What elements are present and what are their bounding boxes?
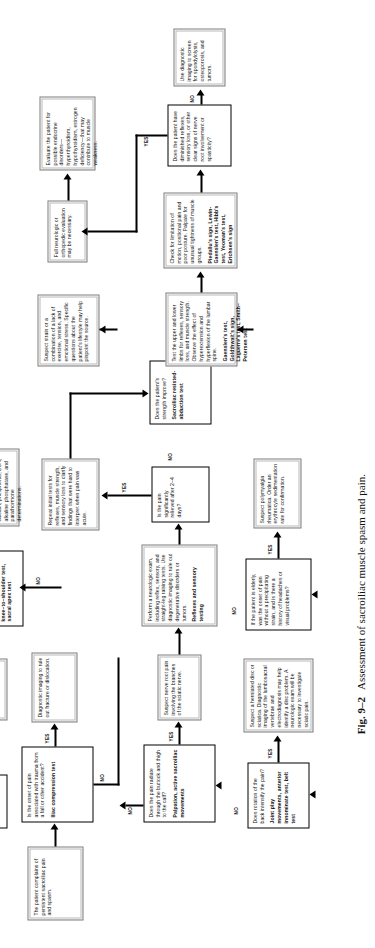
flowchart-rotor: The patient complains of persistent sacr… bbox=[15, 22, 360, 927]
node-n21-text: Test the upper and lower limbs for refle… bbox=[170, 298, 217, 362]
edge-n09-up bbox=[23, 587, 61, 589]
arrow-into-n16 bbox=[311, 591, 317, 599]
arrow-n04-n07 bbox=[119, 802, 125, 810]
edge-n16-n17 bbox=[277, 537, 279, 559]
label-no-n23: NO bbox=[189, 95, 194, 103]
node-n13: Does the patient's strength improve? Sac… bbox=[149, 361, 211, 425]
node-n20-text: Evaluate the patient for possible endocr… bbox=[44, 102, 98, 166]
edge-n02-n04-h bbox=[117, 658, 119, 786]
node-n16-text: If the patient is elderly, was the onset… bbox=[249, 564, 289, 626]
node-n18: Suspect strain or a combination of a lac… bbox=[37, 295, 99, 367]
node-n13-text: Does the patient's strength improve? bbox=[153, 366, 166, 420]
edge-n02-n03 bbox=[54, 729, 56, 747]
edge-n04-n05 bbox=[178, 727, 180, 745]
node-n04: Does the pain radiate through the buttoc… bbox=[143, 745, 215, 823]
node-n23: Does the patient have diminished reflexe… bbox=[167, 105, 231, 167]
node-n17-text: Suspect polymyalgia rheumatica. Order an… bbox=[258, 464, 285, 524]
edge-n23-n19-v bbox=[135, 135, 167, 137]
edge-n01-n02 bbox=[54, 829, 56, 847]
label-no-n16: NO bbox=[231, 607, 236, 615]
node-n10: Suspect hypocalcemia, and check for a po… bbox=[0, 449, 19, 527]
node-n02: Is the onset of pain associated with tra… bbox=[21, 747, 93, 823]
arrow-n19-n20 bbox=[63, 174, 71, 180]
arrow-n22-n23 bbox=[196, 170, 204, 176]
label-no-n11: NO bbox=[167, 453, 172, 461]
node-n16: If the patient is elderly, was the onset… bbox=[245, 559, 311, 631]
figure-page: The patient complains of persistent sacr… bbox=[0, 0, 375, 948]
node-n12-text: Repeat initial tests for reflexes, muscl… bbox=[46, 464, 86, 526]
node-n22-tests: Piedallu's sign, Lewin-Gaenslen's test, … bbox=[206, 198, 233, 264]
arrow-n11-n12 bbox=[101, 492, 107, 500]
node-n07: Does coughing trigger the spasm? bbox=[0, 775, 7, 829]
edge-n12-n13-h bbox=[69, 393, 71, 459]
node-n03: Diagnostic imaging to rule out fracture … bbox=[31, 653, 77, 723]
node-n15: Suspect a herniated disc or sciatica. Di… bbox=[243, 659, 313, 733]
node-n04-text: Does the pain radiate through the buttoc… bbox=[147, 750, 167, 818]
arrow-n06-n11 bbox=[174, 524, 182, 530]
node-n24-text: Use diagnostic imaging to screen for spo… bbox=[178, 34, 212, 82]
edge-n12-n13-v bbox=[69, 393, 143, 395]
figure-caption-text: Assessment of sacroiliac muscle spasm an… bbox=[355, 474, 367, 690]
arrow-into-n14 bbox=[309, 791, 315, 799]
node-n05-text: Suspect nerve root pain involving the br… bbox=[162, 660, 182, 716]
node-n01-text: The patient complains of persistent sacr… bbox=[32, 852, 52, 916]
label-yes-n14: YES bbox=[267, 748, 272, 758]
edge-n02-n04-v bbox=[93, 784, 119, 786]
edge-n05-n06 bbox=[178, 633, 180, 655]
node-n15-text: Suspect a herniated disc or sciatica. Di… bbox=[248, 664, 308, 728]
label-no-n04: NO bbox=[127, 807, 132, 815]
node-n13-tests: Sacroiliac resisted-abduction test bbox=[170, 366, 183, 420]
arrow-n12-n13 bbox=[142, 390, 148, 398]
arrow-into-n18 bbox=[99, 326, 105, 334]
arrow-n09-up bbox=[19, 584, 25, 592]
node-n23-text: Does the patient have diminished reflexe… bbox=[171, 110, 211, 162]
node-n02-text: Is the onset of pain associated with tra… bbox=[25, 752, 45, 818]
node-n11: Is the pain significantly relieved after… bbox=[151, 467, 209, 523]
node-n06: Perform a neurologic exam, including ref… bbox=[141, 545, 217, 627]
node-n12: Repeat initial tests for reflexes, muscl… bbox=[41, 459, 99, 531]
label-yes-n11: YES bbox=[121, 482, 126, 492]
label-no-n09: NO bbox=[35, 577, 40, 585]
node-n04-tests: Palpation, active sacroiliac movements bbox=[171, 750, 184, 818]
node-n20: Evaluate the patient for possible endocr… bbox=[39, 97, 95, 171]
node-n02-tests: Iliac compression test bbox=[49, 752, 56, 818]
arrow-n05-n06 bbox=[174, 628, 182, 634]
arrow-n02-n03 bbox=[50, 724, 58, 730]
node-n18-text: Suspect strain or a combination of a lac… bbox=[42, 300, 89, 362]
label-yes-n16: YES bbox=[267, 544, 272, 554]
node-n01: The patient complains of persistent sacr… bbox=[27, 847, 83, 921]
arrow-n21-n22 bbox=[196, 272, 204, 278]
label-yes-n02: YES bbox=[44, 733, 49, 743]
figure-number: Fig. 9–2 bbox=[355, 697, 367, 734]
arrow-n16-n17 bbox=[273, 532, 281, 538]
edge-n19-n20 bbox=[67, 179, 69, 201]
node-n11-text: Is the pain significantly relieved after… bbox=[155, 472, 182, 518]
flowchart: The patient complains of persistent sacr… bbox=[15, 22, 360, 927]
arrow-into-n21 bbox=[237, 326, 243, 334]
arrow-n23-n19 bbox=[81, 228, 87, 236]
node-n22: Check for limitation of motion, position… bbox=[163, 193, 237, 269]
edge-n11-n12 bbox=[107, 495, 151, 497]
node-n03-text: Diagnostic imaging to rule out fracture … bbox=[36, 658, 49, 718]
arrow-n14-n15 bbox=[273, 736, 281, 742]
node-n14-tests: Joint play movements, anterior innominat… bbox=[268, 768, 295, 824]
arrow-n01-n02 bbox=[50, 824, 58, 830]
edge-n23-n19-v2 bbox=[87, 231, 137, 233]
node-n22-text: Check for limitation of motion, position… bbox=[168, 198, 202, 264]
node-n05: Suspect nerve root pain involving the br… bbox=[157, 655, 201, 721]
node-n21: Test the upper and lower limbs for refle… bbox=[165, 293, 237, 367]
edge-n23-n24 bbox=[200, 95, 202, 105]
edge-n06-n11 bbox=[178, 529, 180, 545]
edge-n14-n15 bbox=[277, 741, 279, 763]
node-n14-text: Does rotation of the back intensify the … bbox=[251, 768, 264, 824]
node-n10-text: Suspect hypocalcemia, and check for a po… bbox=[0, 454, 22, 522]
label-no-n14: NO bbox=[233, 807, 238, 815]
node-n14: Does rotation of the back intensify the … bbox=[247, 763, 309, 829]
label-yes-n04: YES bbox=[168, 731, 173, 741]
label-no-n02: NO bbox=[99, 774, 104, 782]
figure-caption: Fig. 9–2Assessment of sacroiliac muscle … bbox=[355, 474, 367, 734]
node-n17: Suspect polymyalgia rheumatica. Order an… bbox=[253, 459, 301, 529]
node-n08: Suspect nerve root involvement. bbox=[0, 659, 7, 721]
edge-n23-n19-h bbox=[135, 135, 137, 233]
arrow-n04-n05 bbox=[174, 722, 182, 728]
